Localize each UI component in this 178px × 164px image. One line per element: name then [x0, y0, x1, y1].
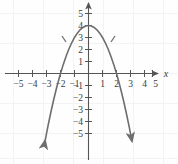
- y-tick-label: 3: [78, 33, 83, 43]
- y-tick-label: −1: [73, 81, 83, 91]
- x-tick-label: −5: [13, 79, 23, 89]
- x-tick-label: 5: [153, 79, 158, 89]
- x-tick-label: 3: [128, 79, 133, 89]
- x-tick-label: −3: [41, 79, 51, 89]
- x-axis-label: x: [163, 68, 169, 79]
- y-tick-label: 5: [78, 9, 83, 19]
- graph-container: −5 −4 −3 −2 −1 1 2 3 4 5 5 4 3 2 1 −1 −2…: [0, 0, 178, 164]
- y-tick-label: −2: [73, 93, 83, 103]
- coordinate-plane-svg: −5 −4 −3 −2 −1 1 2 3 4 5 5 4 3 2 1 −1 −2…: [0, 0, 178, 164]
- y-tick-label: 2: [78, 45, 83, 55]
- x-tick-label: 1: [100, 79, 105, 89]
- x-tick-label: −4: [27, 79, 37, 89]
- y-tick-label: −4: [73, 117, 83, 127]
- y-tick-label: −3: [73, 105, 83, 115]
- y-tick-label: −5: [73, 129, 83, 139]
- y-tick-label: 1: [78, 57, 83, 67]
- x-axis-tick-labels: −5 −4 −3 −2 −1 1 2 3 4 5: [13, 79, 158, 89]
- x-tick-label: 4: [142, 79, 147, 89]
